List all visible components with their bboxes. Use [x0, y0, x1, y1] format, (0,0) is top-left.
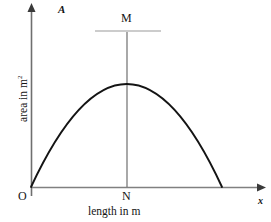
- y-axis-title: area in m2: [18, 53, 30, 145]
- parabola-plot: [0, 0, 271, 222]
- y-axis-title-text: area in m: [17, 79, 29, 122]
- origin-label: O: [18, 190, 27, 202]
- y-axis-arrowhead: [28, 3, 36, 12]
- foot-point-label: N: [122, 190, 131, 202]
- y-axis-symbol-label: A: [58, 4, 65, 15]
- x-axis-symbol-label: x: [258, 196, 263, 206]
- maximum-point-label: M: [121, 12, 132, 24]
- x-axis-title: length in m: [88, 206, 140, 218]
- y-axis-title-exponent: 2: [16, 76, 24, 80]
- x-axis-arrowhead: [257, 184, 266, 192]
- figure-canvas: A x O M N length in m area in m2: [0, 0, 271, 222]
